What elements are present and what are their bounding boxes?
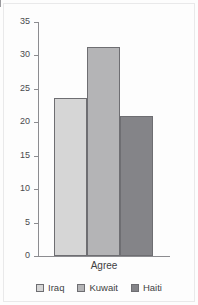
plot-area: 05101520253035 Agree IraqKuwaitHaiti xyxy=(0,0,198,305)
legend-item-kuwait: Kuwait xyxy=(77,283,118,293)
legend-label: Haiti xyxy=(143,283,162,293)
y-axis-tick xyxy=(34,189,39,190)
y-axis-tick-label: 35 xyxy=(4,17,30,26)
y-axis-tick xyxy=(34,22,39,23)
y-axis-tick xyxy=(34,156,39,157)
y-axis-tick xyxy=(34,55,39,56)
bar-chart-figure: 05101520253035 Agree IraqKuwaitHaiti xyxy=(0,0,198,305)
y-axis-tick-label: 30 xyxy=(4,50,30,59)
x-axis-end-tick xyxy=(0,0,1,7)
y-axis-tick-label: 20 xyxy=(4,117,30,126)
legend-item-haiti: Haiti xyxy=(131,283,162,293)
y-axis-tick xyxy=(34,122,39,123)
y-axis-tick-label: 15 xyxy=(4,151,30,160)
legend-label: Kuwait xyxy=(89,283,118,293)
y-axis-tick-label: 5 xyxy=(4,218,30,227)
y-axis-tick-label: 0 xyxy=(4,251,30,260)
legend-swatch-icon xyxy=(36,284,44,292)
chart-legend: IraqKuwaitHaiti xyxy=(0,283,198,293)
legend-swatch-icon xyxy=(131,284,139,292)
y-axis-tick xyxy=(34,256,39,257)
bar-iraq xyxy=(54,98,87,256)
bar-haiti xyxy=(120,116,153,256)
x-axis-line xyxy=(38,256,170,257)
legend-item-iraq: Iraq xyxy=(36,283,64,293)
y-axis-tick-label: 25 xyxy=(4,84,30,93)
y-axis-tick xyxy=(34,223,39,224)
y-axis-tick xyxy=(34,89,39,90)
legend-label: Iraq xyxy=(48,283,64,293)
x-axis-label: Agree xyxy=(38,260,170,271)
bar-kuwait xyxy=(87,47,120,256)
y-axis-tick-label: 10 xyxy=(4,184,30,193)
legend-swatch-icon xyxy=(77,284,85,292)
